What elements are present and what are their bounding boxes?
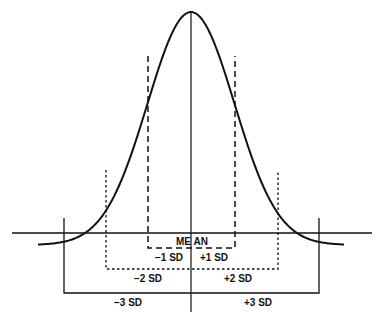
plus-2-sd-label: +2 SD	[224, 273, 252, 284]
plus-3-sd-label: +3 SD	[244, 297, 272, 308]
minus-2-sd-label: −2 SD	[134, 273, 162, 284]
normal-curve-diagram: ME AN −1 SD +1 SD −2 SD +2 SD −3 SD +3 S…	[0, 0, 379, 325]
minus-1-sd-label: −1 SD	[155, 252, 183, 263]
plus-1-sd-label: +1 SD	[200, 252, 228, 263]
two-sd-bracket	[106, 170, 278, 269]
mean-label: ME AN	[176, 236, 208, 247]
minus-3-sd-label: −3 SD	[114, 297, 142, 308]
diagram-graphics	[0, 0, 379, 325]
